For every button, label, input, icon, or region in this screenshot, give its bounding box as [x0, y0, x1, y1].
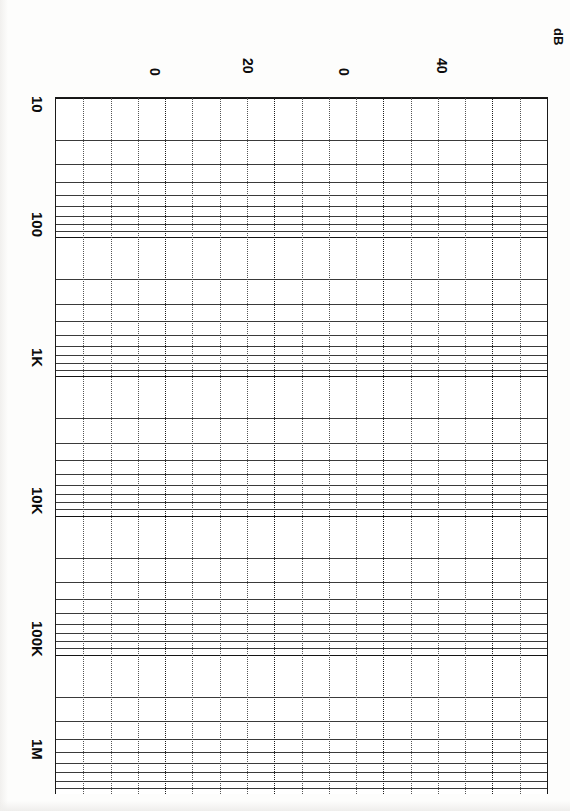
ytick-label-10k: 10K [29, 487, 46, 515]
ytick-label-100k: 100K [29, 621, 46, 657]
ytick-label-100: 100 [29, 212, 46, 237]
xtick-label-0: 0 [147, 68, 163, 76]
ytick-label-10: 10 [29, 96, 46, 113]
gridline-db-minor [520, 98, 521, 794]
gridline-db-minor [192, 98, 193, 794]
gridline-db-minor [220, 98, 221, 794]
gridline-db-minor [247, 98, 248, 794]
xtick-label-30: 0 [336, 68, 352, 76]
xtick-label-40: 40 [434, 58, 450, 74]
gridline-db-minor [138, 98, 139, 794]
xtick-label-20: 20 [240, 58, 256, 74]
gridline-db-minor [411, 98, 412, 794]
scanned-graph-sheet: dB 0 20 0 40 10 100 1K 10K 100K 1M [0, 0, 570, 811]
gridline-db-minor [83, 98, 84, 794]
gridline-db-minor [465, 98, 466, 794]
ytick-label-1m: 1M [29, 739, 46, 760]
gridline-db-major [165, 98, 166, 794]
gridline-db-minor [356, 98, 357, 794]
gridline-db-major [274, 98, 275, 794]
paper-edge-shading-left [0, 0, 8, 811]
gridline-db-major [383, 98, 384, 794]
paper-edge-shading-bottom [0, 801, 570, 811]
gridline-db-major [492, 98, 493, 794]
ytick-label-1k: 1K [29, 348, 46, 367]
semilog-grid-plot-area [55, 97, 548, 794]
gridline-db-minor [111, 98, 112, 794]
gridline-db-minor [302, 98, 303, 794]
gridline-db-minor [438, 98, 439, 794]
gridline-db-minor [329, 98, 330, 794]
axis-unit-label-db: dB [551, 28, 566, 45]
